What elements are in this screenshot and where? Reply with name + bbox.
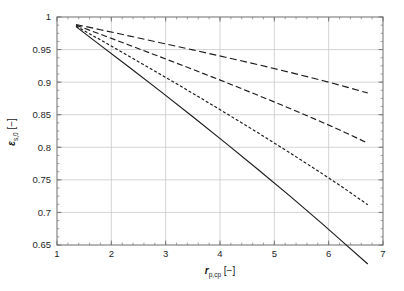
- y-tick-label: 0.9: [38, 77, 51, 88]
- y-tick-label: 0.7: [38, 207, 51, 218]
- x-tick-label: 1: [54, 248, 59, 259]
- svg-text:rp,cp [−]: rp,cp [−]: [205, 265, 236, 279]
- x-tick-label: 2: [109, 248, 114, 259]
- svg-text:εs,0 [−]: εs,0 [−]: [6, 118, 19, 146]
- x-tick-label: 7: [380, 248, 385, 259]
- curve-2-medium-dash: [76, 25, 368, 143]
- y-tick-label: 0.95: [33, 44, 52, 55]
- x-axis-subscript: p,cp: [209, 271, 222, 279]
- y-tick-label: 1: [46, 11, 51, 22]
- chart-figure: 12345670.650.70.750.80.850.90.951 εs,0 […: [0, 0, 404, 291]
- y-tick-label: 0.8: [38, 142, 51, 153]
- x-axis-title: rp,cp [−]: [205, 265, 236, 279]
- y-axis-title: εs,0 [−]: [6, 118, 19, 146]
- y-tick-label: 0.75: [33, 174, 52, 185]
- x-tick-label: 4: [217, 248, 222, 259]
- x-axis-unit: [−]: [221, 265, 235, 276]
- x-tick-label: 3: [163, 248, 168, 259]
- data-curves: [76, 24, 368, 264]
- y-axis-unit: [−]: [6, 118, 17, 132]
- y-tick-label: 0.85: [33, 109, 52, 120]
- curve-3-short-dash: [76, 26, 368, 205]
- x-tick-label: 5: [272, 248, 277, 259]
- x-tick-label: 6: [326, 248, 331, 259]
- curve-1-long-dash: [76, 24, 368, 93]
- grid-lines: [57, 17, 383, 245]
- chart-canvas: 12345670.650.70.750.80.850.90.951 εs,0 […: [0, 0, 404, 291]
- axis-tick-labels: 12345670.650.70.750.80.850.90.951: [33, 11, 386, 259]
- y-tick-label: 0.65: [33, 239, 52, 250]
- curve-4-solid: [76, 27, 368, 264]
